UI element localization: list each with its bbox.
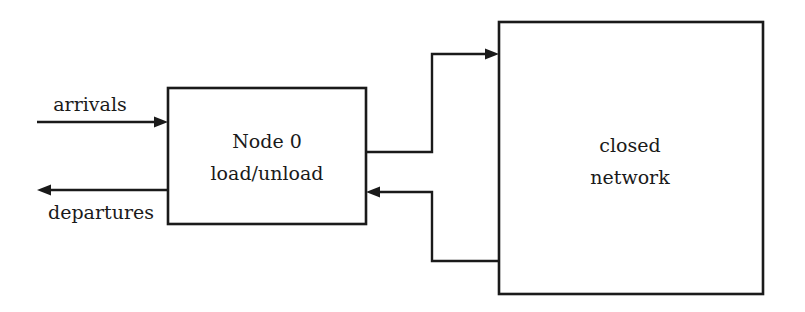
arrow-right-icon <box>485 49 499 60</box>
node-0-box <box>168 88 366 224</box>
queueing-network-diagram: Node 0 load/unload closed network arriva… <box>0 0 805 312</box>
closed-network-box <box>499 22 763 294</box>
from-network-edge <box>366 187 499 262</box>
departures-edge: departures <box>37 185 168 224</box>
departures-label: departures <box>48 201 154 223</box>
node-0: Node 0 load/unload <box>168 88 366 224</box>
arrow-right-icon <box>154 117 168 128</box>
to-network-edge <box>366 49 499 153</box>
node-0-subtitle: load/unload <box>211 162 324 184</box>
arrow-left-icon <box>37 185 51 196</box>
from-network-line <box>378 192 499 261</box>
closed-network-title: closed <box>599 134 660 156</box>
to-network-line <box>366 54 487 152</box>
closed-network: closed network <box>499 22 763 294</box>
arrow-left-icon <box>366 187 380 198</box>
closed-network-subtitle: network <box>590 166 670 188</box>
arrivals-edge: arrivals <box>37 93 168 128</box>
arrivals-label: arrivals <box>53 93 126 115</box>
node-0-title: Node 0 <box>232 130 302 152</box>
